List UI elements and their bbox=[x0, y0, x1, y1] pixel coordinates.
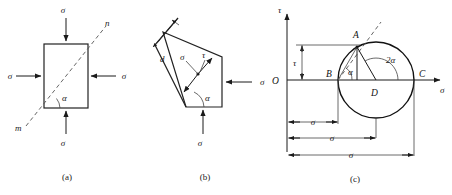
origin-label: O bbox=[272, 76, 279, 86]
dim-label-2: σ bbox=[330, 133, 335, 143]
plane-label-m: m bbox=[15, 123, 22, 133]
tau-dimension-label: τ bbox=[293, 58, 297, 68]
figure-svg: σ σ σ σ α n m (a) bbox=[0, 0, 452, 195]
sigma-label-right-b: σ bbox=[260, 77, 265, 87]
two-alpha-label-c: 2α bbox=[386, 55, 396, 65]
dim-label-3: σ bbox=[349, 150, 354, 160]
sigma-label-bottom-b: σ bbox=[198, 138, 203, 148]
caption-b: (b) bbox=[200, 172, 211, 182]
sigma-leader-b bbox=[186, 61, 198, 74]
sigma-label-normal-b: σ bbox=[180, 52, 185, 62]
alpha-label-a: α bbox=[62, 93, 67, 103]
angle-alpha-arc-b bbox=[194, 92, 204, 107]
dim-label-1: σ bbox=[311, 117, 316, 127]
panel-a: σ σ σ σ α n m (a) bbox=[8, 5, 127, 182]
d-arrow-bottom bbox=[153, 40, 160, 47]
point-b-label: B bbox=[326, 69, 332, 79]
sigma-normal-arrow-b bbox=[184, 74, 198, 92]
wedge-body bbox=[163, 32, 222, 107]
sigma-axis-label: σ bbox=[440, 85, 445, 95]
alpha-label-c: α bbox=[348, 67, 353, 77]
sigma-label-left-a: σ bbox=[8, 71, 13, 81]
panel-c: τ σ O A B C D α 2α τ σ σ σ (c) bbox=[272, 5, 445, 184]
panel-b: d σ τ α σ σ (b) bbox=[153, 18, 265, 182]
caption-c: (c) bbox=[350, 174, 360, 184]
point-c-label: C bbox=[419, 69, 426, 79]
tau-leader-b bbox=[200, 60, 205, 72]
sigma-label-top-a: σ bbox=[61, 5, 66, 15]
caption-a: (a) bbox=[62, 172, 72, 182]
d-label-b: d bbox=[160, 54, 165, 64]
radius-da bbox=[357, 47, 376, 80]
sigma-label-right-a: σ bbox=[122, 71, 127, 81]
tau-axis-label: τ bbox=[278, 5, 282, 15]
alpha-label-b: α bbox=[205, 93, 210, 103]
angle-alpha-arc-a bbox=[57, 99, 61, 109]
tau-label-shear-b: τ bbox=[202, 50, 206, 60]
figure-container: σ σ σ σ α n m (a) bbox=[0, 0, 452, 195]
sigma-label-bottom-a: σ bbox=[61, 138, 66, 148]
center-d-label: D bbox=[370, 88, 378, 98]
plane-label-n: n bbox=[105, 18, 110, 28]
point-a-label: A bbox=[352, 30, 359, 40]
